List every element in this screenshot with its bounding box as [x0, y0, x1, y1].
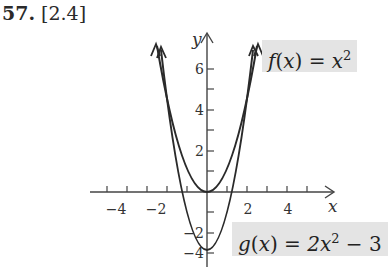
svg-text:2: 2 [195, 143, 204, 159]
svg-text:6: 6 [195, 61, 204, 77]
svg-text:2: 2 [244, 201, 253, 217]
svg-text:−2: −2 [146, 201, 167, 217]
svg-text:4: 4 [195, 102, 204, 118]
y-tick-labels: 6 4 2 −2 −4 [183, 61, 204, 261]
y-ticks [207, 69, 214, 253]
svg-text:−4: −4 [106, 201, 127, 217]
svg-text:4: 4 [284, 201, 293, 217]
x-tick-labels: −4 −2 2 4 [106, 201, 293, 217]
g-function-label: g(x) = 2x2 − 3 [232, 222, 388, 256]
y-axis-label: y [191, 29, 202, 49]
x-axis-label: x [328, 196, 338, 216]
f-function-label: f(x) = x2 [262, 40, 357, 72]
